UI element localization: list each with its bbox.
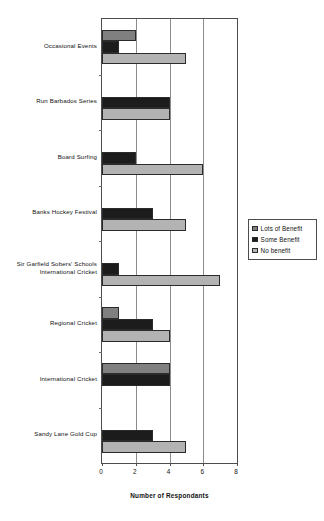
category-label-line: Occasional Events <box>0 42 97 50</box>
category-label: Board Surfing <box>0 153 97 161</box>
chart-legend: Lots of BenefitSome BenefitNo benefit <box>248 219 317 260</box>
bar <box>102 319 153 331</box>
category-label: International Cricket <box>0 375 97 383</box>
category-axis-tick <box>99 186 102 187</box>
bar <box>102 363 170 375</box>
x-axis-tick <box>170 463 171 466</box>
bar <box>102 108 170 120</box>
category-axis-labels: Occasional EventsRun Barbados SeriesBoar… <box>0 18 101 464</box>
bar-group <box>102 252 237 287</box>
bar-group <box>102 30 237 65</box>
bar-group <box>102 307 237 342</box>
bar-chart: Occasional EventsRun Barbados SeriesBoar… <box>0 0 324 521</box>
x-tick-label: 8 <box>224 468 248 475</box>
x-tick-label: 2 <box>123 468 147 475</box>
bar <box>102 53 186 65</box>
x-axis-tick <box>102 463 103 466</box>
category-label-line: International Cricket <box>0 268 97 276</box>
legend-item[interactable]: Some Benefit <box>252 234 313 245</box>
category-label: Run Barbados Series <box>0 97 97 105</box>
legend-swatch-icon <box>252 237 258 243</box>
category-label-line: Run Barbados Series <box>0 97 97 105</box>
bar <box>102 97 170 109</box>
x-tick-label: 6 <box>190 468 214 475</box>
legend-label: Some Benefit <box>261 236 300 243</box>
category-axis-tick <box>99 75 102 76</box>
bar <box>102 374 170 386</box>
bar <box>102 275 220 287</box>
legend-swatch-icon <box>252 248 258 254</box>
bar <box>102 430 153 442</box>
bar <box>102 41 119 53</box>
x-axis-tick <box>203 463 204 466</box>
category-label: Sir Garfield Sobers' SchoolsInternationa… <box>0 259 97 276</box>
legend-label: Lots of Benefit <box>261 225 303 232</box>
category-axis-tick <box>99 130 102 131</box>
bar <box>102 164 203 176</box>
category-label-line: Sir Garfield Sobers' Schools <box>0 259 97 267</box>
legend-item[interactable]: No benefit <box>252 245 313 256</box>
category-label-line: Banks Hockey Festival <box>0 208 97 216</box>
bar-group <box>102 196 237 231</box>
bar <box>102 307 119 319</box>
bar-group <box>102 85 237 120</box>
legend-swatch-icon <box>252 226 258 232</box>
category-label: Regional Cricket <box>0 319 97 327</box>
bar <box>102 219 186 231</box>
category-label-line: Regional Cricket <box>0 319 97 327</box>
bar <box>102 152 136 164</box>
x-tick-label: 0 <box>89 468 113 475</box>
bar <box>102 330 170 342</box>
bar <box>102 208 153 220</box>
x-tick-label: 4 <box>157 468 181 475</box>
bar-group <box>102 363 237 398</box>
category-label: Occasional Events <box>0 42 97 50</box>
x-axis-tick <box>136 463 137 466</box>
bar <box>102 30 136 42</box>
category-label: Banks Hockey Festival <box>0 208 97 216</box>
x-axis-title: Number of Respondants <box>101 492 238 499</box>
plot-area <box>101 18 238 464</box>
category-label: Sandy Lane Gold Cup <box>0 430 97 438</box>
x-axis-tick-labels: 02468 <box>101 468 238 480</box>
category-label-line: Board Surfing <box>0 153 97 161</box>
x-axis-tick <box>237 463 238 466</box>
bar-group <box>102 141 237 176</box>
bar <box>102 263 119 275</box>
category-label-line: Sandy Lane Gold Cup <box>0 430 97 438</box>
bar-group <box>102 418 237 453</box>
category-axis-tick <box>99 241 102 242</box>
category-axis-tick <box>99 408 102 409</box>
category-axis-tick <box>99 297 102 298</box>
legend-item[interactable]: Lots of Benefit <box>252 223 313 234</box>
bar <box>102 441 186 453</box>
category-label-line: International Cricket <box>0 375 97 383</box>
category-axis-tick <box>99 352 102 353</box>
legend-label: No benefit <box>261 247 291 254</box>
